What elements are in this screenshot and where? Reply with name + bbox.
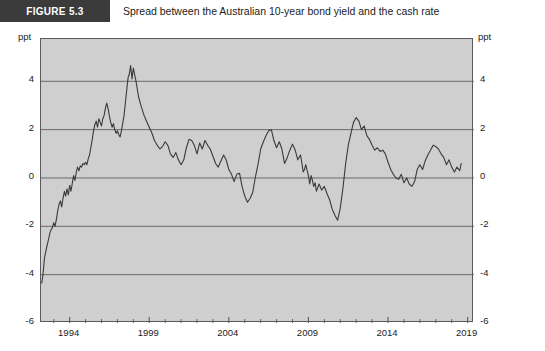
figure-container: FIGURE 5.3 Spread between the Australian… [0,0,545,351]
figure-title: Spread between the Australian 10-year bo… [123,0,439,22]
figure-header: FIGURE 5.3 Spread between the Australian… [0,0,545,22]
x-tick-label: 2009 [284,327,330,338]
y-tick-label-left: 2 [8,122,34,133]
header-divider [0,22,545,23]
y-tick-label-right: -2 [480,218,506,229]
y-axis-unit-right: ppt [478,31,491,42]
y-tick-label-left: -2 [8,218,34,229]
gridlines [41,81,474,274]
y-axis-unit-left: ppt [18,31,31,42]
series-line-spread [42,66,461,284]
y-tick-label-left: -6 [8,315,34,326]
y-tick-label-right: -6 [480,315,506,326]
y-tick-label-left: 0 [8,170,34,181]
y-tick-label-right: 0 [480,170,506,181]
y-tick-label-left: 4 [8,73,34,84]
y-tick-label-left: -4 [8,267,34,278]
x-minor-ticks [54,317,468,323]
x-tick-label: 2019 [444,327,490,338]
figure-number-badge: FIGURE 5.3 [0,0,110,22]
plot-area [40,38,473,322]
x-tick-label: 1994 [46,327,92,338]
x-tick-label: 2014 [364,327,410,338]
x-tick-label: 2004 [205,327,251,338]
y-tick-label-right: 2 [480,122,506,133]
chart-canvas [41,39,474,323]
y-tick-label-right: 4 [480,73,506,84]
x-tick-label: 1999 [125,327,171,338]
y-tick-label-right: -4 [480,267,506,278]
